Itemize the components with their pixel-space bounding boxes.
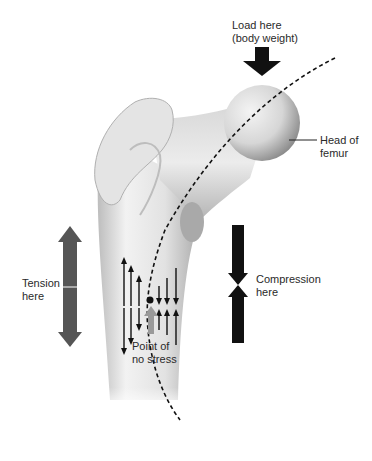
tension-label-line1: Tension: [22, 277, 60, 290]
point-of-no-stress-label: Point of no stress: [132, 340, 177, 366]
neutral-point-dot: [147, 297, 154, 304]
compression-label-line2: here: [256, 286, 321, 299]
femur-head: [224, 85, 300, 161]
load-label-line2: (body weight): [232, 32, 298, 45]
compression-label: Compression here: [256, 273, 321, 299]
compression-label-line1: Compression: [256, 273, 321, 286]
load-label-line1: Load here: [232, 19, 298, 32]
head-label-line1: Head of: [320, 134, 359, 147]
tension-label: Tension here: [22, 277, 60, 303]
head-of-femur-label: Head of femur: [320, 134, 359, 160]
tension-label-line2: here: [22, 290, 60, 303]
neutral-label-line1: Point of: [132, 340, 177, 353]
load-arrow: [243, 47, 281, 76]
compression-arrow: [228, 225, 248, 343]
lesser-trochanter: [180, 202, 204, 242]
tension-arrow: [58, 226, 82, 347]
neutral-label-line2: no stress: [132, 353, 177, 366]
head-label-line2: femur: [320, 147, 359, 160]
load-label: Load here (body weight): [232, 19, 298, 45]
femur-diagram: [0, 0, 372, 461]
